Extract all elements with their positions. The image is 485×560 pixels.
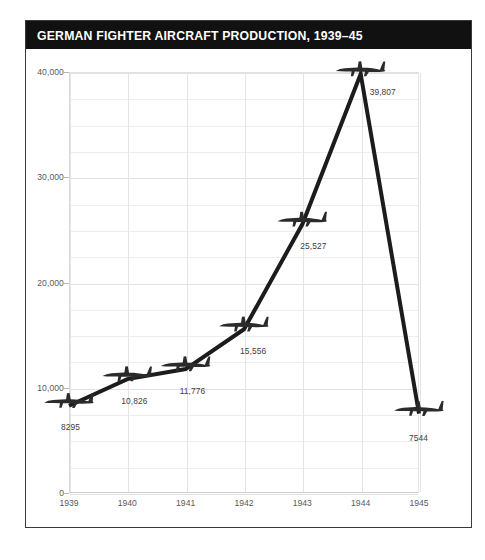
chart-title-bar: GERMAN FIGHTER AIRCRAFT PRODUCTION, 1939… [26, 21, 471, 49]
chart-figure: GERMAN FIGHTER AIRCRAFT PRODUCTION, 1939… [25, 20, 472, 528]
x-axis-tick-label: 1944 [351, 498, 370, 508]
y-axis-tick-label: 20,000 [37, 278, 64, 288]
aircraft-silhouette-icon [394, 401, 444, 416]
data-point-value-label: 11,776 [180, 386, 206, 396]
series-line-group [69, 74, 419, 414]
data-point-value-label: 8295 [61, 422, 80, 432]
x-axis-tick-label: 1940 [118, 498, 137, 508]
series-line [69, 74, 419, 414]
chart-title: GERMAN FIGHTER AIRCRAFT PRODUCTION, 1939… [37, 28, 387, 43]
x-axis-tick-label: 1941 [176, 498, 195, 508]
gridline-major-horizontal [70, 494, 418, 495]
data-layer [69, 72, 419, 493]
y-axis-tick-label: 40,000 [37, 67, 64, 77]
plot-wrapper: 010,00020,00030,00040,000 829510,82611,7… [26, 49, 471, 527]
x-axis-tick-label: 1943 [293, 498, 312, 508]
data-point-value-label: 7544 [409, 433, 428, 443]
x-axis-tick-label: 1939 [59, 498, 78, 508]
x-axis-tick-label: 1945 [409, 498, 428, 508]
chart-title-text: GERMAN FIGHTER AIRCRAFT PRODUCTION, 1939… [37, 28, 363, 43]
data-point-value-label: 10,826 [121, 396, 147, 406]
y-axis-tick-label: 10,000 [37, 383, 64, 393]
gridline-vertical [420, 73, 421, 492]
y-axis-labels: 010,00020,00030,00040,000 [26, 72, 64, 493]
x-axis-labels: 1939194019411942194319441945 [69, 498, 419, 514]
y-axis-tick-label: 30,000 [37, 172, 64, 182]
data-point-value-label: 15,556 [240, 346, 266, 356]
x-axis-tick-label: 1942 [234, 498, 253, 508]
data-point-value-label: 25,527 [300, 241, 326, 251]
aircraft-marker-icon [394, 401, 444, 416]
y-axis-tick-mark [64, 493, 69, 494]
data-point-value-label: 39,807 [370, 87, 396, 97]
series-marker-group [44, 61, 444, 416]
